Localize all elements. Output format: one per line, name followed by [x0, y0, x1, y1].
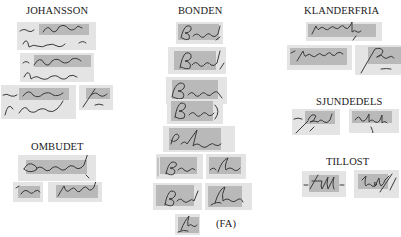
word-crop-bonden-4 — [167, 99, 223, 124]
word-crop-bonden-1 — [176, 22, 223, 44]
word-crop-bonden-8 — [153, 183, 202, 210]
group-label-sjundedels: SJUNDEDELS — [316, 96, 382, 107]
word-crop-johansson-2 — [20, 53, 94, 82]
word-crop-sjundedels-1 — [292, 109, 340, 135]
word-crop-ombudet-2 — [13, 182, 43, 202]
group-label-ombudet: OMBUDET — [31, 141, 84, 152]
word-crop-bonden-9 — [205, 183, 252, 210]
word-crop-klanderfria-2 — [287, 45, 352, 70]
group-label-bonden: BONDEN — [178, 5, 222, 16]
word-crop-johansson-3 — [1, 85, 76, 119]
word-crop-johansson-4 — [79, 85, 113, 110]
word-crop-bonden-6 — [156, 154, 203, 179]
word-crop-ombudet-3 — [48, 182, 102, 202]
word-crop-sjundedels-2 — [349, 109, 399, 133]
word-crop-bonden-5 — [163, 126, 235, 152]
group-label-klanderfria: KLANDERFRIA — [304, 5, 379, 16]
word-crop-klanderfria-1 — [306, 22, 382, 41]
word-crop-tillost-1 — [302, 171, 346, 197]
group-label-tillost: TILLOST — [326, 156, 369, 167]
false-alarm-label: (FA) — [216, 218, 236, 229]
word-crop-bonden-10 — [175, 214, 200, 235]
word-crop-johansson-1 — [17, 22, 96, 50]
word-crop-bonden-2 — [168, 47, 226, 74]
group-label-johansson: JOHANSSON — [26, 5, 88, 16]
word-crop-klanderfria-3 — [355, 45, 401, 75]
handwriting-image — [17, 22, 96, 50]
word-crop-tillost-2 — [354, 170, 399, 198]
word-crop-ombudet-1 — [18, 155, 96, 181]
word-crop-bonden-7 — [206, 154, 246, 179]
